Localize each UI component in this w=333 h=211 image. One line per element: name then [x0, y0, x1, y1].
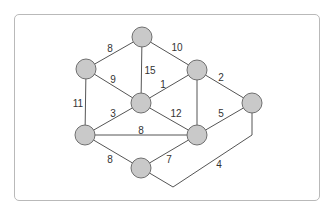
node-far-right: [242, 93, 262, 113]
node-center: [131, 93, 151, 113]
node-bottom: [131, 158, 151, 178]
node-lower-right: [187, 125, 207, 145]
graph-canvas: 8 10 15 9 11 1 2 3 12 5 8 8 7 4: [0, 0, 333, 211]
weight-lower-left-lower-right: 8: [138, 125, 144, 136]
weight-upper-left-center: 9: [110, 74, 116, 85]
node-top: [132, 27, 152, 47]
node-upper-right: [187, 60, 207, 80]
weight-lower-left-bottom: 8: [107, 154, 113, 165]
weight-upper-right-far-right: 2: [218, 72, 224, 83]
weight-top-center: 15: [144, 65, 156, 76]
weight-far-right-lower-right: 5: [218, 108, 224, 119]
weight-lower-right-bottom: 7: [166, 154, 172, 165]
weight-upper-right-center: 1: [160, 79, 166, 90]
weight-top-upper-left: 8: [107, 43, 113, 54]
weight-center-lower-right: 12: [170, 108, 182, 119]
weight-top-upper-right: 10: [171, 42, 183, 53]
weight-bottom-far-right: 4: [216, 159, 222, 170]
node-lower-left: [75, 125, 95, 145]
node-upper-left: [76, 59, 96, 79]
weight-upper-left-lower-left: 11: [73, 98, 84, 109]
weight-center-lower-left: 3: [110, 108, 116, 119]
